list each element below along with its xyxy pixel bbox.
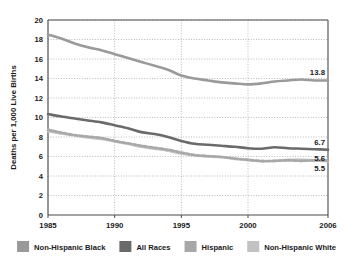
legend-label-non-hispanic-white: Non-Hispanic White (264, 243, 336, 252)
legend-swatch-hispanic (185, 241, 197, 252)
y-tick-label: 20 (35, 16, 43, 25)
y-tick-label: 2 (39, 191, 43, 200)
y-tick-label: 6 (39, 152, 43, 161)
x-tick-label: 1995 (173, 221, 191, 230)
y-axis-label: Deaths per 1,000 Live Births (9, 65, 18, 170)
end-label-hispanic: 5.6 (314, 154, 326, 163)
x-tick-label: 1990 (106, 221, 124, 230)
legend-swatch-non-hispanic-white (247, 241, 259, 252)
y-tick-label: 18 (35, 35, 43, 44)
end-label-non-hispanic-black: 13.8 (310, 68, 326, 77)
y-tick-label: 8 (39, 133, 43, 142)
legend-swatch-non-hispanic-black (17, 241, 29, 252)
infant-mortality-line-chart: 02468101214161820 19851990199520002006 1… (0, 0, 353, 267)
legend-label-hispanic: Hispanic (202, 243, 234, 252)
end-label-all-races: 6.7 (314, 138, 325, 147)
x-tick-label: 1985 (39, 221, 57, 230)
end-label-non-hispanic-white: 5.5 (314, 164, 326, 173)
chart-svg: 02468101214161820 19851990199520002006 1… (0, 0, 353, 267)
y-tick-label: 0 (39, 211, 43, 220)
y-tick-label: 14 (35, 74, 44, 83)
y-tick-label: 16 (35, 55, 43, 64)
legend-label-all-races: All Races (136, 243, 170, 252)
y-tick-label: 12 (35, 94, 43, 103)
x-tick-label: 2000 (239, 221, 257, 230)
x-tick-label: 2006 (319, 221, 337, 230)
legend-label-non-hispanic-black: Non-Hispanic Black (34, 243, 106, 252)
y-tick-label: 10 (35, 113, 43, 122)
legend-swatch-all-races (119, 241, 131, 252)
